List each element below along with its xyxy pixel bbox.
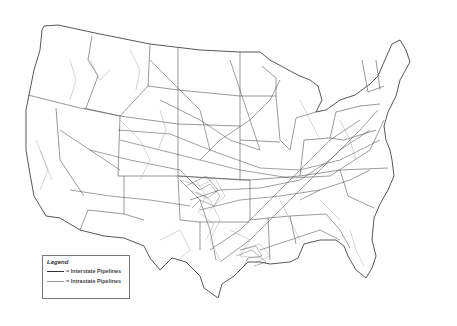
map-legend: Legend = Interstate Pipelines = Intrasta… xyxy=(42,255,130,299)
intrastate-line-swatch xyxy=(47,281,64,282)
legend-item-interstate: = Interstate Pipelines xyxy=(47,268,125,274)
interstate-pipelines xyxy=(60,60,384,262)
state-borders xyxy=(28,36,388,260)
legend-title: Legend xyxy=(47,259,125,265)
legend-label-intrastate: = Intrastate Pipelines xyxy=(66,278,121,284)
interstate-line-swatch xyxy=(47,271,64,272)
legend-item-intrastate: = Intrastate Pipelines xyxy=(47,278,125,284)
legend-label-interstate: = Interstate Pipelines xyxy=(66,268,121,274)
